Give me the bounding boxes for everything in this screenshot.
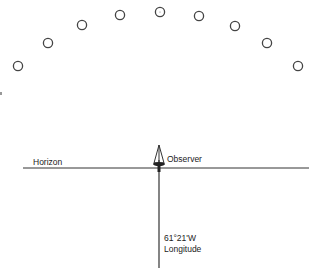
star-arc (13, 7, 302, 70)
star-circle-icon (77, 20, 86, 29)
horizon-label: Horizon (33, 157, 62, 167)
edge-mark (0, 92, 2, 95)
star-circle-icon (293, 61, 302, 70)
longitude-label: Longitude (164, 244, 201, 254)
longitude-value: 61°21'W (164, 233, 196, 243)
star-circle-icon (194, 11, 203, 20)
celestial-diagram (0, 0, 316, 269)
observer-label: Observer (167, 154, 202, 164)
star-circle-icon (13, 61, 22, 70)
star-circle-icon (230, 21, 239, 30)
star-circle-icon (43, 38, 52, 47)
star-circle-icon (115, 10, 124, 19)
zenith-dot (159, 11, 160, 12)
star-circle-icon (262, 38, 271, 47)
